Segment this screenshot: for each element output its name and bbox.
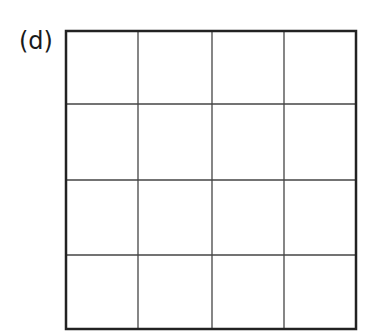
grid-diagram bbox=[0, 0, 370, 335]
grid-inner-lines bbox=[66, 31, 356, 329]
